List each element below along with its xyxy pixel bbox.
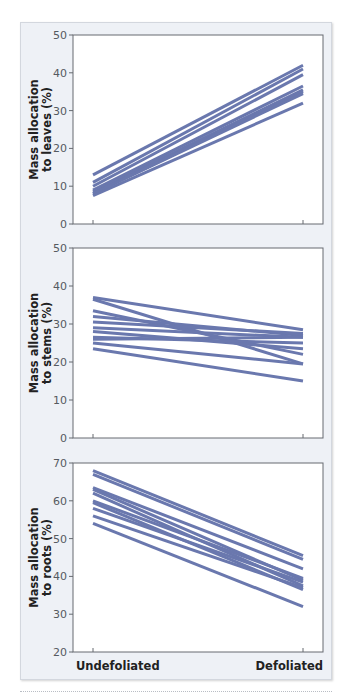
y-tick-label: 50 — [53, 533, 67, 546]
x-label-defoliated: Defoliated — [256, 659, 323, 673]
stems-series-line — [93, 337, 303, 339]
y-tick-label: 40 — [53, 67, 67, 80]
y-tick-label: 20 — [53, 646, 67, 659]
leaves-chart: 01020304050Mass allocationto leaves (%) — [27, 29, 323, 231]
y-tick-label: 30 — [53, 318, 67, 331]
y-tick-label: 70 — [53, 457, 67, 470]
stems-y-axis-title: Mass allocationto stems (%) — [27, 293, 54, 394]
y-tick-label: 50 — [53, 29, 67, 42]
y-tick-label: 10 — [53, 394, 67, 407]
y-tick-label: 40 — [53, 570, 67, 583]
leaves-y-axis-title: Mass allocationto leaves (%) — [27, 79, 54, 180]
y-tick-label: 0 — [60, 432, 67, 445]
roots-chart: 203040506070Mass allocationto roots (%) — [27, 457, 323, 659]
y-tick-label: 10 — [53, 180, 67, 193]
roots-y-axis-title: Mass allocationto roots (%) — [27, 507, 54, 608]
y-tick-label: 0 — [60, 218, 67, 231]
y-tick-label: 30 — [53, 105, 67, 118]
roots-plot-area — [73, 463, 323, 652]
y-tick-label: 30 — [53, 608, 67, 621]
y-tick-label: 20 — [53, 142, 67, 155]
y-tick-label: 20 — [53, 356, 67, 369]
y-tick-label: 50 — [53, 242, 67, 255]
x-label-undefoliated: Undefoliated — [76, 659, 160, 673]
dotted-divider — [20, 691, 332, 692]
stems-chart: 01020304050Mass allocationto stems (%) — [27, 242, 323, 445]
chart-figure: 01020304050Mass allocationto leaves (%) … — [0, 0, 346, 699]
y-tick-label: 40 — [53, 280, 67, 293]
y-tick-label: 60 — [53, 495, 67, 508]
